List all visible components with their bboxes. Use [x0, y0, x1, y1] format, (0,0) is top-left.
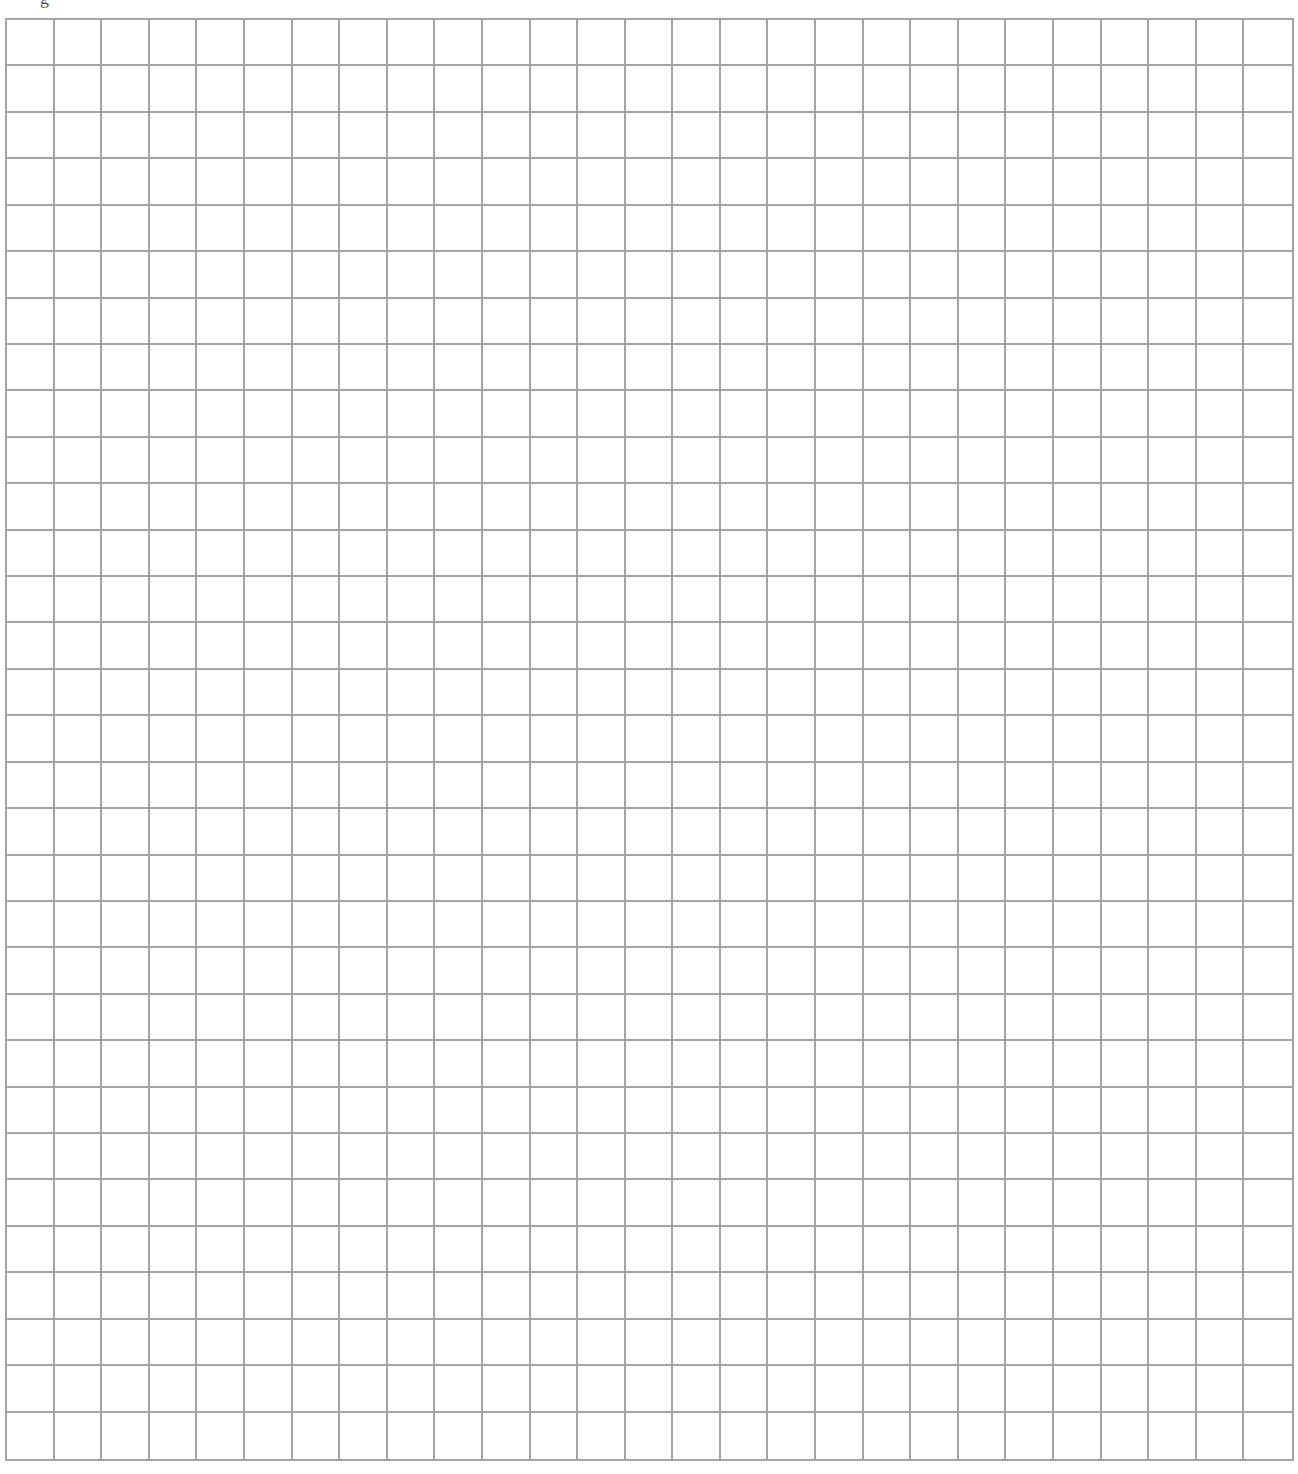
grid-cell	[150, 531, 198, 577]
grid-cell	[483, 391, 531, 437]
grid-cell	[102, 856, 150, 902]
grid-cell	[102, 1088, 150, 1134]
grid-cell	[55, 763, 103, 809]
grid-cell	[435, 531, 483, 577]
grid-cell	[483, 902, 531, 948]
grid-cell	[626, 1273, 674, 1319]
grid-cell	[721, 716, 769, 762]
grid-cell	[578, 531, 626, 577]
grid-cell	[483, 670, 531, 716]
grid-cell	[435, 484, 483, 530]
grid-cell	[1006, 948, 1054, 994]
grid-cell	[340, 716, 388, 762]
grid-cell	[7, 252, 55, 298]
grid-cell	[340, 1320, 388, 1366]
grid-cell	[55, 716, 103, 762]
grid-cell	[626, 391, 674, 437]
grid-cell	[1197, 531, 1245, 577]
grid-cell	[293, 20, 341, 66]
grid-cell	[7, 1366, 55, 1412]
grid-cell	[531, 113, 579, 159]
grid-cell	[1054, 345, 1102, 391]
grid-cell	[340, 252, 388, 298]
grid-cell	[55, 1041, 103, 1087]
grid-cell	[673, 948, 721, 994]
grid-cell	[959, 948, 1007, 994]
grid-cell	[768, 856, 816, 902]
grid-cell	[626, 1413, 674, 1459]
grid-cell	[435, 1134, 483, 1180]
grid-cell	[340, 1273, 388, 1319]
grid-cell	[1244, 1041, 1292, 1087]
grid-cell	[626, 856, 674, 902]
grid-cell	[959, 1227, 1007, 1273]
grid-cell	[435, 252, 483, 298]
grid-cell	[1244, 1366, 1292, 1412]
grid-cell	[864, 948, 912, 994]
grid-cell	[864, 391, 912, 437]
grid-cell	[7, 206, 55, 252]
grid-cell	[673, 856, 721, 902]
grid-cell	[1054, 113, 1102, 159]
grid-cell	[1244, 1413, 1292, 1459]
grid-cell	[626, 531, 674, 577]
grid-cell	[7, 113, 55, 159]
grid-cell	[673, 1041, 721, 1087]
grid-cell	[1149, 902, 1197, 948]
grid-cell	[197, 902, 245, 948]
grid-cell	[245, 1273, 293, 1319]
grid-cell	[768, 1180, 816, 1226]
grid-cell	[768, 484, 816, 530]
grid-cell	[7, 623, 55, 669]
grid-cell	[150, 670, 198, 716]
grid-cell	[768, 670, 816, 716]
grid-cell	[816, 113, 864, 159]
grid-cell	[1149, 1227, 1197, 1273]
grid-cell	[816, 1227, 864, 1273]
grid-cell	[1102, 1041, 1150, 1087]
grid-cell	[721, 531, 769, 577]
grid-cell	[864, 206, 912, 252]
grid-cell	[340, 391, 388, 437]
grid-cell	[388, 20, 436, 66]
grid-cell	[55, 902, 103, 948]
grid-cell	[150, 948, 198, 994]
grid-cell	[864, 577, 912, 623]
grid-cell	[531, 623, 579, 669]
grid-cell	[102, 484, 150, 530]
grid-cell	[1006, 902, 1054, 948]
grid-cell	[7, 299, 55, 345]
grid-cell	[1244, 1320, 1292, 1366]
grid-cell	[673, 577, 721, 623]
grid-cell	[1244, 438, 1292, 484]
grid-cell	[1102, 1134, 1150, 1180]
grid-cell	[1102, 1180, 1150, 1226]
grid-cell	[959, 670, 1007, 716]
graph-paper-grid	[5, 18, 1294, 1461]
grid-cell	[864, 20, 912, 66]
grid-cell	[864, 66, 912, 112]
grid-cell	[102, 345, 150, 391]
grid-cell	[578, 159, 626, 205]
grid-cell	[578, 716, 626, 762]
grid-cell	[959, 159, 1007, 205]
grid-cell	[150, 438, 198, 484]
grid-cell	[150, 995, 198, 1041]
grid-cell	[1006, 670, 1054, 716]
grid-cell	[864, 1134, 912, 1180]
grid-cell	[911, 252, 959, 298]
grid-cell	[245, 484, 293, 530]
grid-cell	[531, 484, 579, 530]
grid-cell	[721, 1041, 769, 1087]
grid-cell	[578, 206, 626, 252]
grid-cell	[55, 577, 103, 623]
grid-cell	[1244, 345, 1292, 391]
grid-cell	[197, 1366, 245, 1412]
grid-cell	[340, 345, 388, 391]
grid-cell	[578, 1180, 626, 1226]
grid-cell	[626, 577, 674, 623]
grid-cell	[1006, 1041, 1054, 1087]
grid-cell	[911, 1413, 959, 1459]
grid-cell	[435, 1041, 483, 1087]
grid-cell	[1054, 1366, 1102, 1412]
